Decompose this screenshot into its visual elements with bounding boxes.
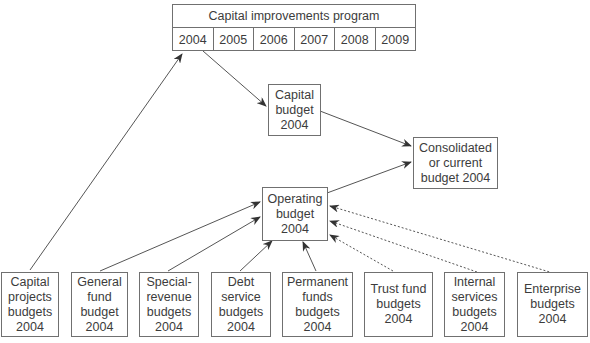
- arrow-special-to-operating: [168, 217, 260, 271]
- cip-year-cell: 2006: [254, 28, 295, 51]
- special-revenue-budgets-box: Special- revenue budgets 2004: [139, 272, 199, 337]
- cip-year-cell: 2008: [335, 28, 376, 51]
- arrow-trust-to-operating: [330, 235, 393, 271]
- capital-budget-box: Capital budget 2004: [268, 84, 321, 136]
- debt-service-budgets-box: Debt service budgets 2004: [211, 272, 271, 337]
- cip-year-cell: 2004: [173, 28, 214, 51]
- arrow-capital-budget-to-consolidated: [320, 111, 411, 146]
- arrow-general-to-operating: [100, 202, 260, 271]
- arrow-cip-to-capital-budget: [203, 51, 266, 106]
- arrow-internal-to-operating: [330, 221, 477, 272]
- cip-title: Capital improvements program: [173, 5, 415, 28]
- arrow-permanent-to-operating: [303, 242, 316, 271]
- cip-year-cell: 2005: [214, 28, 255, 51]
- capital-projects-budgets-box: Capital projects budgets 2004: [1, 272, 59, 337]
- general-fund-budget-box: General fund budget 2004: [71, 272, 128, 337]
- enterprise-budgets-box: Enterprise budgets 2004: [517, 272, 588, 337]
- internal-services-budgets-box: Internal services budgets 2004: [444, 272, 505, 337]
- cip-year-cell: 2009: [376, 28, 416, 51]
- arrow-operating-to-consolidated: [327, 162, 411, 193]
- consolidated-budget-box: Consolidated or current budget 2004: [413, 137, 498, 189]
- arrow-debt-to-operating: [240, 241, 272, 271]
- trust-fund-budgets-box: Trust fund budgets 2004: [364, 272, 433, 337]
- arrow-enterprise-to-operating: [330, 206, 553, 273]
- arrow-capital-projects-to-cip: [30, 54, 182, 270]
- cip-year-cell: 2007: [295, 28, 336, 51]
- cip-years-row: 2004 2005 2006 2007 2008 2009: [173, 28, 415, 51]
- operating-budget-box: Operating budget 2004: [262, 187, 328, 241]
- capital-improvements-program-table: Capital improvements program 2004 2005 2…: [172, 4, 416, 51]
- permanent-funds-budgets-box: Permanent funds budgets 2004: [282, 272, 353, 337]
